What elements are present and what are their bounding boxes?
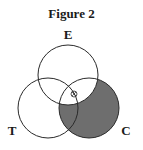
label-c: C bbox=[121, 123, 130, 138]
label-t: T bbox=[8, 123, 17, 138]
label-e: E bbox=[64, 27, 73, 42]
venn-diagram: E T C bbox=[0, 0, 143, 150]
